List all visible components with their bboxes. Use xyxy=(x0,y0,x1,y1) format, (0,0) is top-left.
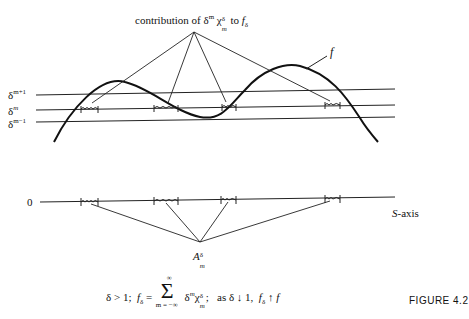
sum-lower-limit: m = −∞ xyxy=(156,302,178,309)
contribution-middle: to xyxy=(228,14,242,26)
axis-interval-3 xyxy=(221,196,236,204)
term-chi-sub: m xyxy=(200,303,205,310)
set-sup: δ xyxy=(200,252,203,259)
caption-condition: δ > 1; xyxy=(106,291,137,303)
level-line-m-minus-1 xyxy=(36,117,395,122)
s-axis-suffix: -axis xyxy=(398,207,419,219)
level-power: m+1 xyxy=(13,88,26,96)
set-base: A xyxy=(193,250,200,262)
f-leader-line xyxy=(306,56,327,69)
set-sub: m xyxy=(200,263,205,270)
chi-sup: δ xyxy=(222,16,225,23)
f-sub: δ xyxy=(245,21,248,29)
caption-f3: f xyxy=(276,291,279,303)
level-label-m: δm xyxy=(8,105,18,117)
contribution-label: contribution of δm χδm to fδ xyxy=(135,14,248,29)
s-axis-label: S-axis xyxy=(392,208,419,219)
figure-canvas xyxy=(0,0,469,319)
chi-sub: m xyxy=(222,26,227,33)
level-power: m xyxy=(13,104,18,112)
level-label-m-plus-1: δm+1 xyxy=(8,89,26,101)
f-curve-label: f xyxy=(330,46,333,58)
caption-limit-text: ; as δ ↓ 1, xyxy=(206,291,259,303)
caption-formula: δ > 1; fδ = ∞ Σ m = −∞ δmχδm; as δ ↓ 1, … xyxy=(106,287,279,306)
set-lines xyxy=(91,201,330,242)
axis-interval-1 xyxy=(81,198,98,206)
origin-label: 0 xyxy=(27,197,33,208)
contribution-prefix: contribution of δ xyxy=(135,14,209,26)
set-label: Aδm xyxy=(193,251,206,262)
term-chi-sup: δ xyxy=(200,293,203,300)
caption-equals: = xyxy=(143,291,155,303)
delta-power: m xyxy=(209,13,214,21)
function-curve-f xyxy=(54,65,378,142)
summation: ∞ Σ m = −∞ xyxy=(158,287,182,301)
figure-label: FIGURE 4.2 xyxy=(409,296,468,306)
caption-arrow-up: ↑ xyxy=(265,291,276,303)
axis-interval-2 xyxy=(154,197,178,205)
sigma-symbol: Σ xyxy=(161,280,174,302)
level-power: m−1 xyxy=(13,117,26,125)
level-label-m-minus-1: δm−1 xyxy=(8,118,26,130)
